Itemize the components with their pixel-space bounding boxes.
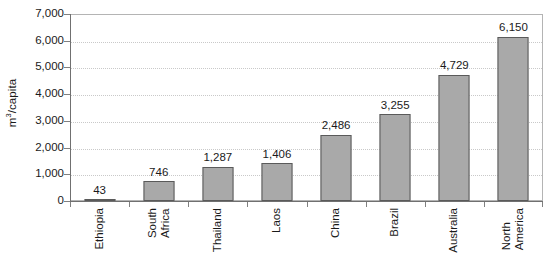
bar-value-label: 1,406 <box>263 149 292 161</box>
y-axis-title-prefix: m <box>6 117 18 127</box>
bar-value-label: 6,150 <box>499 22 528 34</box>
bar-value-label: 4,729 <box>440 60 469 72</box>
x-axis-tick-mark <box>542 202 543 207</box>
x-axis-category-label-text: NorthAmerica <box>501 208 526 250</box>
x-axis-category-label-line: Australia <box>448 208 460 253</box>
y-axis-tick-label: 6,000 <box>22 35 64 47</box>
x-axis-category-label: China <box>307 208 366 263</box>
x-axis-category-label-text: Australia <box>449 208 461 253</box>
x-axis-category-labels: EthiopiaSouthAfricaThailandLaosChinaBraz… <box>70 208 543 263</box>
bar[interactable] <box>498 37 529 201</box>
bars-container: 437461,2871,4062,4863,2554,7296,150 <box>70 14 543 201</box>
x-axis-category-label-text: China <box>330 208 342 238</box>
bar-group[interactable]: 4,729 <box>425 14 484 201</box>
x-axis-category-label: NorthAmerica <box>484 208 543 263</box>
x-axis-category-label: Ethiopia <box>70 208 129 263</box>
x-axis-category-label-line: South <box>145 208 157 238</box>
bar[interactable] <box>321 135 352 201</box>
x-axis-tick-mark <box>484 202 485 207</box>
bar-value-label: 746 <box>149 167 168 179</box>
x-axis-category-label-text: SouthAfrica <box>146 208 171 238</box>
x-axis-category-label-line: Africa <box>159 208 171 238</box>
x-axis-category-label: SouthAfrica <box>129 208 188 263</box>
y-axis-title-text: m3/capita <box>6 78 18 127</box>
bar-group[interactable]: 1,406 <box>247 14 306 201</box>
x-axis-category-label-line: America <box>514 208 526 250</box>
bar-value-label: 3,255 <box>381 100 410 112</box>
bar-group[interactable]: 6,150 <box>484 14 543 201</box>
x-axis-tick-mark <box>188 202 189 207</box>
y-axis-tick-label: 3,000 <box>22 115 64 127</box>
bar[interactable] <box>84 199 115 201</box>
x-axis-tick-mark <box>307 202 308 207</box>
x-axis-category-label-text: Brazil <box>389 208 401 237</box>
x-axis-category-label-line: Laos <box>270 208 282 233</box>
bar-group[interactable]: 2,486 <box>307 14 366 201</box>
x-axis-tick-mark <box>129 202 130 207</box>
bar-value-label: 1,287 <box>203 152 232 164</box>
bar-group[interactable]: 3,255 <box>366 14 425 201</box>
x-axis-category-label-line: China <box>329 208 341 238</box>
x-axis-category-label-text: Laos <box>271 208 283 233</box>
bar[interactable] <box>439 75 470 201</box>
y-axis-tick-label: 2,000 <box>22 142 64 154</box>
y-axis-title: m3/capita <box>0 0 24 205</box>
bar-value-label: 2,486 <box>322 120 351 132</box>
bar[interactable] <box>143 181 174 201</box>
x-axis-category-label: Australia <box>425 208 484 263</box>
x-axis-category-label-line: Brazil <box>388 208 400 237</box>
x-axis-category-label-line: North <box>500 222 512 250</box>
y-axis-tick-labels: 01,0002,0003,0004,0005,0006,0007,000 <box>22 14 64 201</box>
y-axis-tick-label: 1,000 <box>22 169 64 181</box>
bar[interactable] <box>380 114 411 201</box>
y-axis-tick-label: 5,000 <box>22 62 64 74</box>
bar[interactable] <box>202 167 233 201</box>
y-axis-title-suffix: /capita <box>6 78 18 113</box>
x-axis-category-label: Thailand <box>188 208 247 263</box>
x-axis-tick-mark <box>247 202 248 207</box>
y-axis-tick-label: 0 <box>22 195 64 207</box>
bar-group[interactable]: 1,287 <box>188 14 247 201</box>
bar-chart-figure: m3/capita 01,0002,0003,0004,0005,0006,00… <box>0 0 552 263</box>
bar-group[interactable]: 43 <box>70 14 129 201</box>
x-axis-category-label-text: Ethiopia <box>94 208 106 250</box>
bar[interactable] <box>261 163 292 201</box>
y-axis-title-superscript: 3 <box>4 113 13 117</box>
x-axis-category-label-line: Thailand <box>211 208 223 252</box>
y-axis-tick-label: 4,000 <box>22 88 64 100</box>
bar-value-label: 43 <box>93 185 106 197</box>
x-axis-category-label-text: Thailand <box>212 208 224 252</box>
bar-group[interactable]: 746 <box>129 14 188 201</box>
x-axis-category-label-line: Ethiopia <box>93 208 105 250</box>
x-axis-tick-mark <box>425 202 426 207</box>
x-axis-category-label: Brazil <box>366 208 425 263</box>
y-axis-tick-label: 7,000 <box>22 8 64 20</box>
x-axis-tick-mark <box>366 202 367 207</box>
x-axis-category-label: Laos <box>247 208 306 263</box>
x-axis-tick-mark <box>70 202 71 207</box>
